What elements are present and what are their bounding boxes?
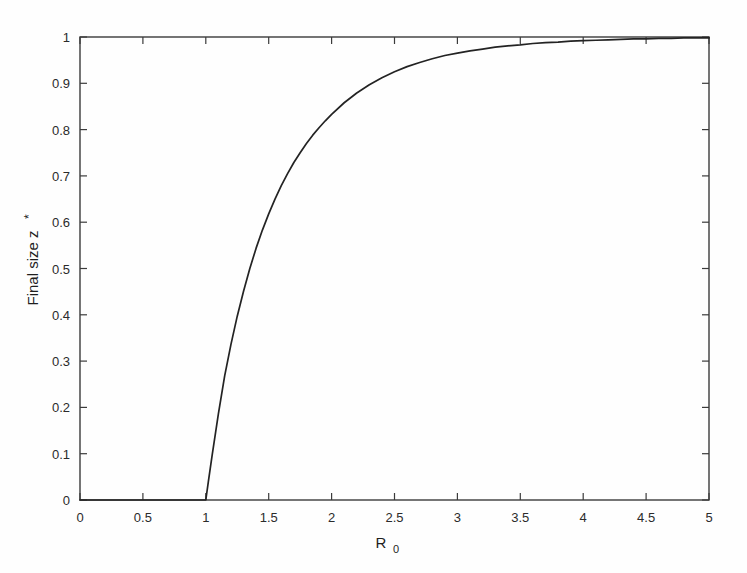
y-tick-label-0.6: 0.6 xyxy=(52,215,70,230)
x-tick-label-4: 4 xyxy=(580,510,587,525)
x-tick-label-3.5: 3.5 xyxy=(511,510,529,525)
figure-canvas: 00.511.522.533.544.55 00.10.20.30.40.50.… xyxy=(0,0,747,573)
y-tick-label-0.7: 0.7 xyxy=(52,169,70,184)
x-axis-title-text: R xyxy=(376,534,387,551)
y-tick-label-0: 0 xyxy=(63,493,70,508)
x-tick-label-5: 5 xyxy=(705,510,712,525)
x-tick-label-0: 0 xyxy=(76,510,83,525)
y-axis-title-text: Final size z xyxy=(24,230,41,305)
x-tick-label-2: 2 xyxy=(328,510,335,525)
y-tick-label-0.5: 0.5 xyxy=(52,262,70,277)
y-tick-label-0.1: 0.1 xyxy=(52,447,70,462)
x-axis-title-subscript: 0 xyxy=(393,543,399,555)
y-tick-label-0.2: 0.2 xyxy=(52,400,70,415)
y-tick-label-1: 1 xyxy=(63,30,70,45)
y-tick-label-0.3: 0.3 xyxy=(52,354,70,369)
y-tick-label-0.9: 0.9 xyxy=(52,76,70,91)
x-tick-label-3: 3 xyxy=(454,510,461,525)
y-tick-label-0.4: 0.4 xyxy=(52,308,70,323)
x-tick-label-0.5: 0.5 xyxy=(134,510,152,525)
y-tick-label-0.8: 0.8 xyxy=(52,123,70,138)
x-tick-label-4.5: 4.5 xyxy=(637,510,655,525)
final-size-chart: 00.511.522.533.544.55 00.10.20.30.40.50.… xyxy=(0,0,747,573)
x-tick-label-1: 1 xyxy=(202,510,209,525)
x-tick-label-2.5: 2.5 xyxy=(385,510,403,525)
chart-background xyxy=(0,0,747,573)
y-axis-title-superscript: * xyxy=(22,214,36,219)
x-tick-label-1.5: 1.5 xyxy=(260,510,278,525)
